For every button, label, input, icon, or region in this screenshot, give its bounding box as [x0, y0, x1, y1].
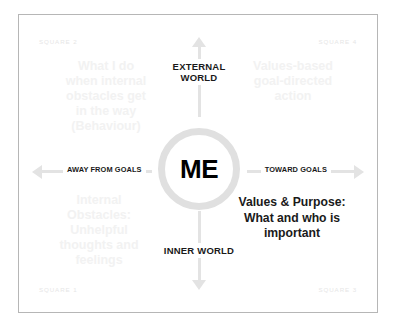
axis-label-toward-goals: TOWARD GOALS [261, 163, 331, 176]
axis-label-away-from-goals: AWAY FROM GOALS [63, 163, 146, 176]
corner-label-square-3: SQUARE 3 [319, 286, 358, 293]
corner-label-square-1: SQUARE 1 [39, 286, 78, 293]
axis-label-external-world: EXTERNAL WORLD [156, 59, 242, 85]
axis-label-inner-world: INNER WORLD [156, 243, 242, 258]
arrow-right-icon [354, 165, 364, 179]
diagram-frame: SQUARE 2 SQUARE 4 SQUARE 1 SQUARE 3 What… [18, 14, 378, 313]
center-circle-label: ME [180, 156, 218, 182]
quadrant-text-square-3: Values & Purpose: What and who is import… [224, 195, 360, 242]
corner-label-square-4: SQUARE 4 [319, 38, 358, 45]
arrow-left-icon [32, 165, 42, 179]
quadrant-text-square-1: Internal Obstacles: Unhelpful thoughts a… [49, 193, 149, 268]
quadrant-text-square-2: What I do when internal obstacles get in… [57, 59, 155, 134]
quadrant-text-square-4: Values-based goal-directed action [239, 59, 347, 104]
arrow-up-icon [192, 37, 206, 47]
arrow-down-icon [192, 280, 206, 290]
corner-label-square-2: SQUARE 2 [39, 38, 78, 45]
